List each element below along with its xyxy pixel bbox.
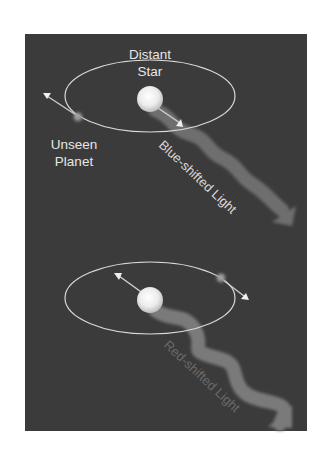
planet-label-line1: Unseen <box>51 137 98 152</box>
star-label-line1: Distant <box>129 47 171 62</box>
bottom-planet <box>217 274 226 283</box>
bottom-star <box>137 287 163 313</box>
diagram-svg: Distant Star Unseen Planet Blue-shifted … <box>0 0 331 460</box>
top-star <box>137 86 163 112</box>
top-planet <box>74 113 83 122</box>
planet-label-line2: Planet <box>55 154 94 169</box>
space-panel <box>25 34 307 431</box>
doppler-wobble-diagram: Distant Star Unseen Planet Blue-shifted … <box>0 0 331 460</box>
star-label-line2: Star <box>138 64 163 79</box>
